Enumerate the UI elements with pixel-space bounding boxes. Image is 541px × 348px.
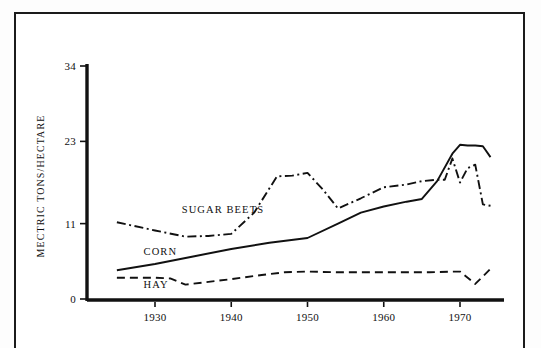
series-label-sugar-beets: SUGAR BEETS — [182, 204, 264, 215]
x-axis-ticks — [155, 302, 460, 307]
y-axis-tick-labels: 0112334 — [65, 60, 77, 305]
series-label-corn: CORN — [144, 246, 178, 257]
series-line-sugar-beets — [117, 159, 491, 237]
y-tick-label: 23 — [65, 135, 77, 147]
series-line-hay — [117, 269, 491, 285]
y-tick-label: 34 — [65, 60, 77, 72]
figure-container: 0112334 19301940195019601970 MECTRIC TON… — [0, 0, 541, 348]
x-tick-label: 1930 — [144, 311, 167, 323]
x-tick-label: 1950 — [296, 311, 319, 323]
x-tick-label: 1960 — [372, 311, 395, 323]
y-tick-label: 0 — [70, 293, 76, 305]
y-axis-title: MECTRIC TONS/HECTARE — [35, 115, 46, 258]
y-tick-label: 11 — [65, 218, 76, 230]
x-tick-label: 1970 — [449, 311, 472, 323]
series-lines — [117, 145, 491, 285]
x-tick-label: 1940 — [220, 311, 243, 323]
series-label-hay: HAY — [144, 279, 169, 290]
chart-canvas: 0112334 19301940195019601970 MECTRIC TON… — [0, 0, 541, 348]
x-axis-tick-labels: 19301940195019601970 — [144, 311, 472, 323]
